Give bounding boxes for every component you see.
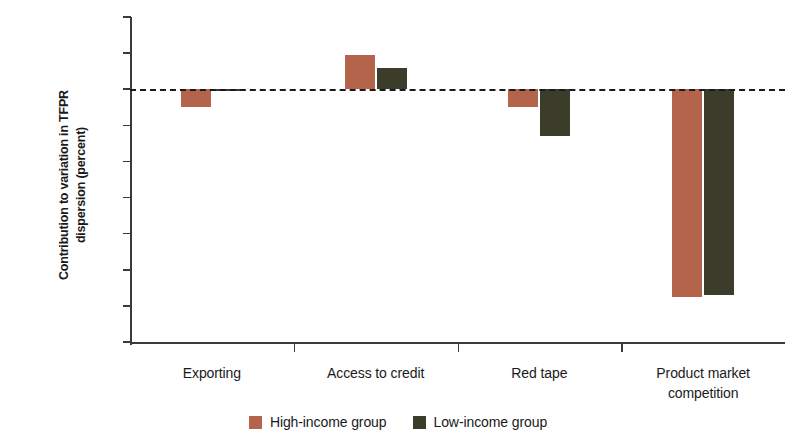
legend-label: Low-income group [434, 414, 548, 430]
plot-area: 20100−10−20−30−40−50−60−70 ExportingAcce… [130, 14, 785, 344]
y-tick [123, 233, 131, 235]
y-tick [123, 341, 131, 343]
bar [704, 89, 734, 295]
y-tick [123, 16, 131, 18]
y-tick [123, 161, 131, 163]
legend-label: High-income group [270, 414, 387, 430]
chart-legend: High-income groupLow-income group [0, 414, 796, 430]
legend-swatch-icon [413, 416, 426, 429]
bar [181, 89, 211, 107]
bar [508, 89, 538, 107]
legend-swatch-icon [249, 416, 262, 429]
y-tick [123, 125, 131, 127]
bar [377, 68, 407, 90]
bar [540, 89, 570, 136]
category-tick [621, 343, 623, 352]
bar [345, 55, 375, 89]
category-tick [294, 343, 296, 352]
zero-reference-line [130, 89, 785, 91]
category-label: Exporting [130, 363, 294, 383]
category-label: Access to credit [294, 363, 458, 383]
category-label: Red tape [458, 363, 622, 383]
bar [672, 89, 702, 297]
y-tick [123, 52, 131, 54]
y-tick [123, 305, 131, 307]
legend-item: High-income group [249, 414, 387, 430]
category-label: Product market competition [621, 363, 785, 403]
y-axis-title: Contribution to variation in TFPR disper… [56, 20, 90, 350]
bar-chart-figure: Contribution to variation in TFPR disper… [0, 0, 796, 444]
y-tick [123, 197, 131, 199]
y-tick [123, 269, 131, 271]
y-axis-line [130, 17, 132, 345]
legend-item: Low-income group [413, 414, 548, 430]
category-tick [458, 343, 460, 352]
